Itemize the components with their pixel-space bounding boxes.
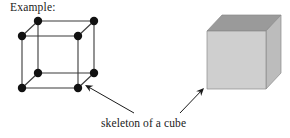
cube-vertex-dot bbox=[74, 32, 82, 40]
arrow-to-solid-cube-head bbox=[196, 88, 204, 96]
arrow-to-skeleton-shaft bbox=[88, 87, 134, 113]
example-heading: Example: bbox=[10, 1, 56, 13]
skeleton-cube bbox=[18, 17, 98, 92]
cube-front-face bbox=[207, 31, 266, 89]
cube-top-face bbox=[207, 15, 281, 31]
cube-edge bbox=[78, 21, 94, 36]
arrow-group bbox=[85, 85, 204, 113]
cube-vertex-dot bbox=[34, 69, 42, 77]
cube-vertex-dot bbox=[90, 17, 98, 25]
cube-vertex-dot bbox=[34, 17, 42, 25]
cube-edge bbox=[22, 21, 38, 36]
solid-cube bbox=[207, 15, 281, 89]
cube-vertex-dot bbox=[90, 69, 98, 77]
cube-vertex-dot bbox=[18, 32, 26, 40]
cube-vertex-dot bbox=[18, 84, 26, 92]
cube-vertex-dot bbox=[74, 84, 82, 92]
cube-right-face bbox=[266, 15, 281, 89]
figure-caption: skeleton of a cube bbox=[101, 117, 186, 129]
cube-edge bbox=[78, 73, 94, 88]
arrow-to-solid-cube-shaft bbox=[180, 91, 201, 113]
figure-canvas: Example: skeleton of a cube bbox=[0, 0, 290, 138]
cube-edge bbox=[22, 73, 38, 88]
arrow-to-skeleton-head bbox=[85, 85, 93, 92]
